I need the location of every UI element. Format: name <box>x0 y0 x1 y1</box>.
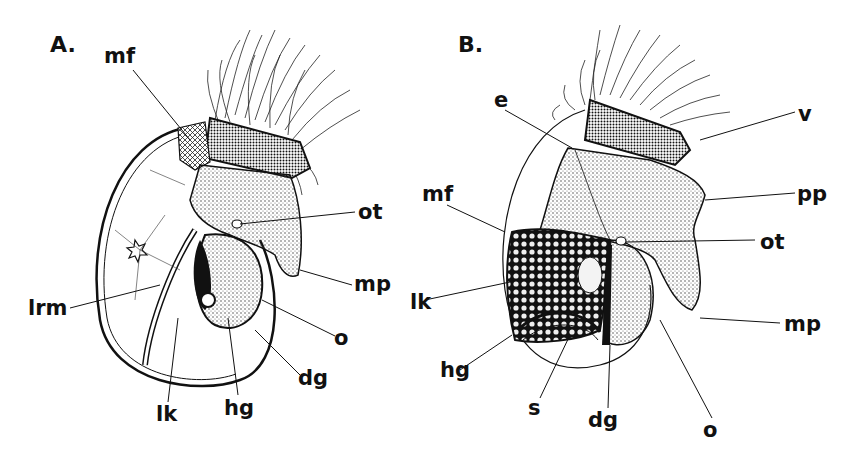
label-lk: lk <box>156 404 177 425</box>
velum-cilia-b <box>552 25 730 125</box>
label-e: e <box>494 90 508 111</box>
label-o: o <box>334 328 348 349</box>
label-ot: ot <box>358 202 382 223</box>
label-lk: lk <box>410 292 431 313</box>
panel-a-drawing <box>70 30 360 402</box>
label-mf: mf <box>422 184 453 205</box>
label-o: o <box>703 420 717 441</box>
label-s: s <box>528 398 541 419</box>
panel-b-title: B. <box>458 34 483 56</box>
label-ot: ot <box>760 232 784 253</box>
panel-a-title: A. <box>50 34 76 56</box>
panel-b-drawing <box>425 25 795 418</box>
label-mp: mp <box>354 274 391 295</box>
label-mp: mp <box>784 314 821 335</box>
label-v: v <box>798 104 812 125</box>
label-dg: dg <box>298 368 328 389</box>
label-dg: dg <box>588 410 618 431</box>
label-hg: hg <box>224 398 254 419</box>
diagram-artwork <box>0 0 849 458</box>
label-mf: mf <box>104 46 135 67</box>
label-lrm: lrm <box>28 298 67 319</box>
label-pp: pp <box>797 184 827 205</box>
label-hg: hg <box>440 360 470 381</box>
